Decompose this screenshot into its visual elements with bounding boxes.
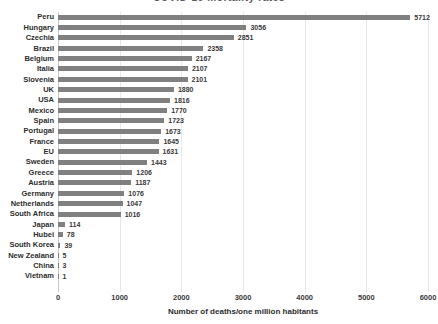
bar-rows: 5712305628512358216721072101188018161770…: [58, 12, 428, 292]
bar: [58, 274, 59, 279]
bar-value-label: 5: [63, 252, 67, 259]
bar-value-label: 114: [69, 221, 80, 228]
category-label: Portugal: [0, 126, 54, 136]
bar-value-label: 1880: [178, 86, 194, 93]
category-label: Vietnam: [0, 271, 54, 281]
bar: [58, 129, 161, 134]
bar-row: 2107: [58, 64, 428, 74]
x-axis-ticks: 0100020003000400050006000: [58, 294, 428, 306]
bar-value-label: 39: [64, 242, 72, 249]
bar-row: 1: [58, 271, 428, 281]
bar: [58, 87, 174, 92]
category-label: UK: [0, 85, 54, 95]
category-label: Netherlands: [0, 198, 54, 208]
x-tick-label: 3000: [235, 294, 252, 302]
bar: [58, 191, 124, 196]
category-label: Hubei: [0, 230, 54, 240]
bar-value-label: 3: [63, 262, 67, 269]
x-tick-label: 1000: [111, 294, 128, 302]
bar-row: 1076: [58, 188, 428, 198]
bar: [58, 201, 123, 206]
bar-row: 2851: [58, 33, 428, 43]
bar-value-label: 1723: [168, 117, 184, 124]
category-label: Austria: [0, 178, 54, 188]
category-label: France: [0, 136, 54, 146]
category-axis-labels: PeruHungaryCzechiaBrazilBelgiumItaliaSlo…: [0, 12, 54, 292]
bar-value-label: 1816: [174, 97, 190, 104]
x-tick-label: 6000: [420, 294, 437, 302]
category-label: EU: [0, 147, 54, 157]
bar: [58, 118, 164, 123]
bar-row: 1047: [58, 198, 428, 208]
bar-row: 1723: [58, 116, 428, 126]
bar-value-label: 3056: [250, 24, 266, 31]
category-label: USA: [0, 95, 54, 105]
bar-value-label: 1076: [128, 190, 144, 197]
category-label: Italia: [0, 64, 54, 74]
bar: [58, 56, 192, 61]
category-label: Hungary: [0, 22, 54, 32]
gridline: [428, 12, 429, 292]
bar: [58, 232, 63, 237]
bar-value-label: 5712: [414, 14, 430, 21]
bar: [58, 35, 234, 40]
bar: [58, 212, 121, 217]
category-label: Czechia: [0, 33, 54, 43]
category-label: Mexico: [0, 105, 54, 115]
bar-row: 1880: [58, 85, 428, 95]
bar-value-label: 1047: [127, 200, 143, 207]
bar-row: 1770: [58, 105, 428, 115]
bar: [58, 263, 59, 268]
bar: [58, 66, 188, 71]
bar: [58, 77, 188, 82]
category-label: South Africa: [0, 209, 54, 219]
bar-value-label: 1187: [135, 179, 150, 186]
bar-value-label: 2851: [238, 34, 254, 41]
bar: [58, 108, 167, 113]
bar-row: 1673: [58, 126, 428, 136]
chart-title: COVID-19 mortality rates: [0, 0, 438, 5]
bar: [58, 98, 170, 103]
bar-row: 5712: [58, 12, 428, 22]
bar-value-label: 1206: [136, 169, 152, 176]
bar-row: 3: [58, 261, 428, 271]
mortality-bar-chart: COVID-19 mortality rates PeruHungaryCzec…: [0, 0, 438, 324]
category-label: Brazil: [0, 43, 54, 53]
category-label: Germany: [0, 188, 54, 198]
bar-row: 1645: [58, 136, 428, 146]
category-label: Spain: [0, 116, 54, 126]
bar: [58, 253, 59, 258]
bar-value-label: 1: [63, 273, 67, 280]
bar-row: 2358: [58, 43, 428, 53]
bar-value-label: 1016: [125, 211, 141, 218]
bar-row: 2167: [58, 53, 428, 63]
bar-row: 1816: [58, 95, 428, 105]
category-label: Slovenia: [0, 74, 54, 84]
category-label: Japan: [0, 219, 54, 229]
category-label: New Zealand: [0, 250, 54, 260]
bar-value-label: 1770: [171, 107, 187, 114]
bar: [58, 180, 131, 185]
x-tick-label: 0: [56, 294, 60, 302]
bar: [58, 15, 410, 20]
bar: [58, 149, 159, 154]
bar-value-label: 1443: [151, 159, 167, 166]
bar-row: 5: [58, 250, 428, 260]
x-tick-label: 2000: [173, 294, 190, 302]
bar: [58, 46, 203, 51]
bar-row: 1187: [58, 178, 428, 188]
bar: [58, 139, 159, 144]
bar-row: 78: [58, 230, 428, 240]
bar: [58, 25, 246, 30]
plot-area: 5712305628512358216721072101188018161770…: [58, 12, 428, 292]
bar-row: 1016: [58, 209, 428, 219]
bar-value-label: 2107: [192, 65, 208, 72]
category-label: South Korea: [0, 240, 54, 250]
bar-value-label: 78: [67, 231, 75, 238]
category-label: China: [0, 261, 54, 271]
bar-value-label: 1673: [165, 128, 181, 135]
bar-row: 39: [58, 240, 428, 250]
bar-row: 114: [58, 219, 428, 229]
bar-row: 1631: [58, 147, 428, 157]
bar-row: 3056: [58, 22, 428, 32]
